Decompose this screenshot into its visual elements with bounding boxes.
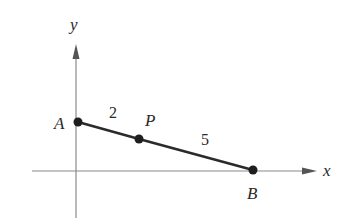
y-axis-arrow-icon bbox=[73, 44, 80, 59]
point-p bbox=[135, 135, 144, 144]
y-axis-label: y bbox=[68, 15, 78, 34]
x-axis-label: x bbox=[322, 161, 331, 180]
x-axis-arrow-icon bbox=[302, 168, 317, 175]
point-b-label: B bbox=[247, 184, 258, 203]
coordinate-diagram: y x 2 5 A P B bbox=[0, 0, 351, 218]
segment-p-b-length-label: 5 bbox=[201, 131, 209, 148]
segment-p-b bbox=[139, 139, 253, 170]
segment-a-p-length-label: 2 bbox=[109, 104, 117, 121]
point-a bbox=[74, 118, 83, 127]
point-a-label: A bbox=[53, 114, 65, 133]
point-p-label: P bbox=[144, 111, 155, 130]
point-b bbox=[249, 166, 258, 175]
segment-a-p bbox=[78, 122, 139, 139]
